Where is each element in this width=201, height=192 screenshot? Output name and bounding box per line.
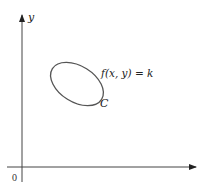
level-curve-diagram: y f(x, y) = k C 0 <box>0 0 201 192</box>
origin-label: 0 <box>12 172 17 183</box>
curve-name-label: C <box>100 97 109 110</box>
curve-equation-label: f(x, y) = k <box>100 67 153 79</box>
y-axis-label: y <box>27 11 35 24</box>
